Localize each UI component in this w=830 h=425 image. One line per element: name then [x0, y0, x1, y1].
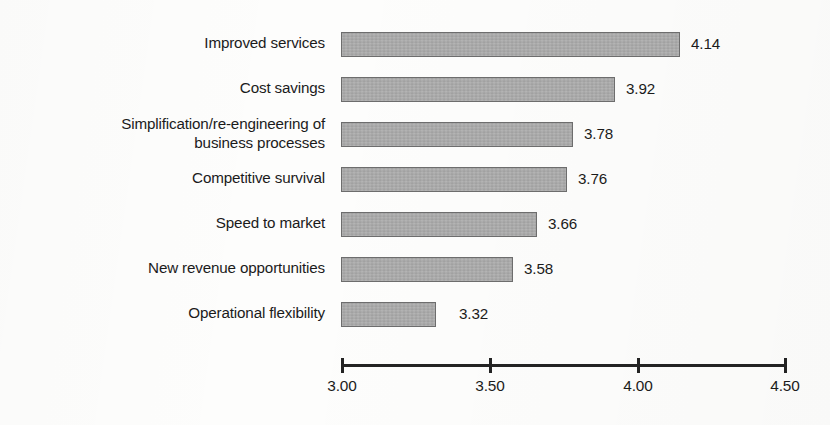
bar-competitive-survival: [341, 167, 567, 192]
category-label: Operational flexibility: [0, 304, 325, 322]
bar-row: Operational flexibility 3.32: [0, 302, 830, 328]
value-label: 3.66: [548, 214, 577, 234]
bar-simplification-re-engineering: [341, 122, 573, 147]
category-label-line: business processes: [0, 133, 325, 152]
category-label: Competitive survival: [0, 169, 325, 187]
value-label: 3.92: [626, 79, 655, 99]
bar-improved-services: [341, 32, 680, 57]
value-label: 3.58: [524, 259, 553, 279]
bar-row: Improved services 4.14: [0, 32, 830, 58]
x-axis-tick-label: 4.00: [603, 376, 673, 396]
x-axis-tick-label: 3.00: [307, 376, 377, 396]
bar-new-revenue-opportunities: [341, 257, 513, 282]
bar-row: Simplification/re-engineering of busines…: [0, 122, 830, 148]
bar-cost-savings: [341, 77, 615, 102]
category-label: Improved services: [0, 34, 325, 52]
category-label-line: Simplification/re-engineering of: [0, 114, 325, 133]
x-axis-tick: [784, 358, 787, 373]
x-axis-tick: [489, 358, 492, 373]
value-label: 4.14: [691, 34, 720, 54]
bar-row: New revenue opportunities 3.58: [0, 257, 830, 283]
bar-row: Competitive survival 3.76: [0, 167, 830, 193]
bar-speed-to-market: [341, 212, 537, 237]
x-axis-tick: [637, 358, 640, 373]
bar-operational-flexibility: [341, 302, 436, 327]
bar-row: Cost savings 3.92: [0, 77, 830, 103]
value-label: 3.78: [584, 124, 613, 144]
category-label: Speed to market: [0, 214, 325, 232]
category-label: New revenue opportunities: [0, 259, 325, 277]
category-label: Cost savings: [0, 79, 325, 97]
x-axis-tick-label: 3.50: [455, 376, 525, 396]
x-axis-tick-label: 4.50: [750, 376, 820, 396]
category-label: Simplification/re-engineering of busines…: [0, 114, 325, 152]
x-axis-line: [341, 364, 787, 367]
x-axis-tick: [341, 358, 344, 373]
bar-chart-figure: Improved services 4.14 Cost savings 3.92…: [0, 0, 830, 425]
value-label: 3.32: [459, 304, 488, 324]
value-label: 3.76: [578, 169, 607, 189]
bar-row: Speed to market 3.66: [0, 212, 830, 238]
